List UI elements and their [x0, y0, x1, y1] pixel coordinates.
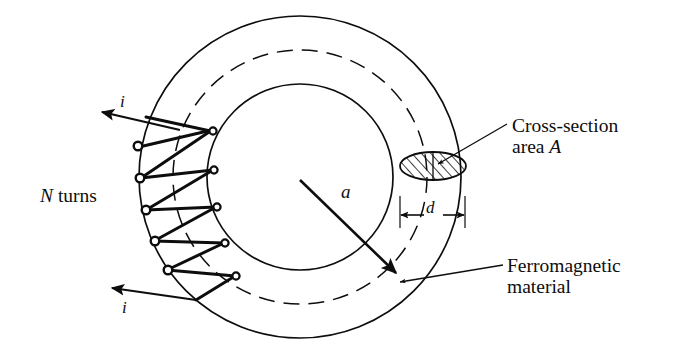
- coil-loop-marker: [210, 166, 217, 173]
- coil-loop-marker: [164, 266, 173, 275]
- coil-loop-marker: [134, 142, 143, 151]
- label-n-turns: N turns: [40, 185, 97, 206]
- cross-section-line2: area A: [512, 136, 618, 157]
- label-current-bottom: i: [122, 299, 127, 317]
- toroid-diagram-svg: [0, 0, 685, 350]
- toroid-figure: N turns Cross-section area A Ferromagnet…: [0, 0, 685, 350]
- label-ferromagnetic-material: Ferromagnetic material: [507, 255, 621, 297]
- coil-loop-marker: [209, 127, 216, 134]
- coil-back-segment: [154, 207, 216, 241]
- ferromagnetic-line1: Ferromagnetic: [507, 255, 621, 276]
- label-cross-section-area: Cross-section area A: [512, 115, 618, 157]
- coil-turn-segment: [167, 270, 235, 276]
- coil-inner-markers: [209, 127, 239, 279]
- cross-section-leader-line: [438, 124, 507, 164]
- label-core-diameter: d: [426, 199, 435, 217]
- label-current-top: i: [120, 93, 125, 111]
- coil-loop-marker: [151, 237, 160, 246]
- ferromagnetic-line2: material: [507, 276, 621, 297]
- coil-loop-marker: [213, 203, 220, 210]
- ferromagnetic-leader-line: [400, 265, 503, 282]
- coil-loop-marker: [232, 272, 239, 279]
- cross-section-line1: Cross-section: [512, 115, 618, 136]
- a-area-symbol: A: [549, 136, 561, 157]
- coil-back-segment: [167, 243, 224, 270]
- coil-loop-marker: [136, 174, 145, 183]
- coil-loop-marker: [142, 206, 151, 215]
- coil-turn-segment: [146, 207, 216, 210]
- cross-section-ellipse: [400, 152, 466, 181]
- label-mean-radius: a: [341, 182, 351, 203]
- coil-turn-segment: [154, 241, 224, 243]
- area-text: area: [512, 136, 549, 157]
- n-symbol: N: [40, 185, 53, 206]
- coil-loop-marker: [221, 239, 228, 246]
- coil-back-segment: [196, 276, 235, 300]
- n-turns-text: turns: [53, 185, 97, 206]
